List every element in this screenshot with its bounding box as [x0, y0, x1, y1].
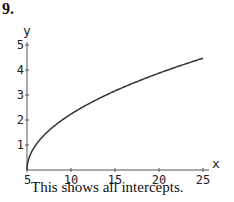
caption: This shows all intercepts.: [31, 179, 183, 196]
y-axis-label: y: [23, 23, 31, 38]
chart: 51015202512345 y x: [0, 0, 234, 202]
y-tick-label: 1: [17, 138, 24, 152]
y-tick-label: 4: [17, 63, 24, 77]
tick-labels: 51015202512345: [17, 38, 210, 187]
tick-marks: [25, 45, 203, 172]
x-tick-label: 25: [196, 173, 210, 187]
y-tick-label: 3: [17, 88, 24, 102]
y-tick-label: 2: [17, 113, 24, 127]
data-curve: [27, 58, 203, 170]
y-tick-label: 5: [17, 38, 24, 52]
x-axis-label: x: [212, 156, 220, 171]
